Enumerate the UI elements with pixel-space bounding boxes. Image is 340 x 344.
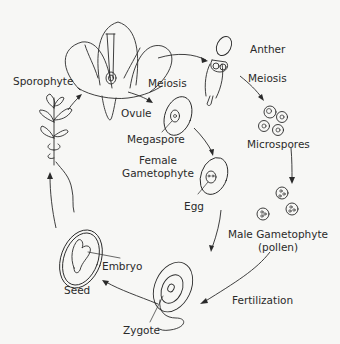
flower-illustration: [65, 22, 172, 120]
label-ovule: Ovule: [121, 107, 152, 119]
arrow-seed-to-sporophyte: [50, 176, 56, 228]
label-fertilization: Fertilization: [232, 294, 293, 306]
arrow-zygote-to-seed: [106, 282, 158, 304]
microspores-illustration: [259, 106, 288, 136]
label-female-gametophyte-line1: Female: [139, 154, 177, 166]
arrow-flower-to-anther: [158, 54, 206, 60]
sporophyte-plant-illustration: [40, 94, 74, 212]
label-male-gametophyte-line1: Male Gametophyte: [228, 228, 328, 240]
label-meiosis-male: Meiosis: [248, 72, 287, 84]
label-meiosis-female: Meiosis: [148, 77, 187, 89]
anther-illustration: [205, 34, 234, 106]
label-seed: Seed: [64, 284, 90, 296]
female-gametophyte-illustration: [195, 154, 232, 199]
label-sporophyte: Sporophyte: [13, 75, 73, 87]
label-anther: Anther: [250, 43, 286, 55]
arrow-ovule-to-gametophyte: [194, 128, 212, 152]
label-male-gametophyte-line2: (pollen): [258, 241, 298, 253]
label-microspores: Microspores: [247, 138, 310, 150]
label-female-gametophyte-line2: Gametophyte: [122, 167, 194, 179]
label-embryo: Embryo: [102, 260, 142, 272]
arrow-microspores-to-pollen: [291, 148, 292, 180]
label-megaspore: Megaspore: [127, 133, 185, 145]
life-cycle-diagram: Sporophyte Meiosis Anther Meiosis Ovule …: [0, 0, 340, 344]
pollen-illustration: [257, 187, 298, 220]
label-zygote: Zygote: [123, 324, 160, 336]
arrow-egg-to-zygote: [212, 210, 221, 248]
label-egg: Egg: [184, 200, 204, 212]
zygote-illustration: [146, 256, 201, 331]
